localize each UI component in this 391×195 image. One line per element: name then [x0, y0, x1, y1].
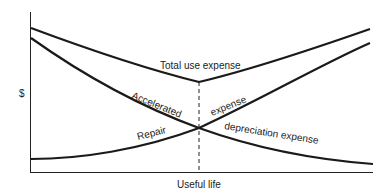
chart: $ Useful life Total use expense Accelera…	[0, 0, 391, 195]
total-use-expense-curve	[31, 28, 370, 82]
y-axis-label: $	[19, 88, 25, 99]
total-label: Total use expense	[160, 60, 241, 71]
depreciation-label: depreciation expense	[224, 120, 320, 146]
x-axis-label: Useful life	[177, 179, 221, 190]
depreciation-curve	[31, 38, 373, 164]
accelerated-label: Accelerated	[130, 90, 183, 120]
